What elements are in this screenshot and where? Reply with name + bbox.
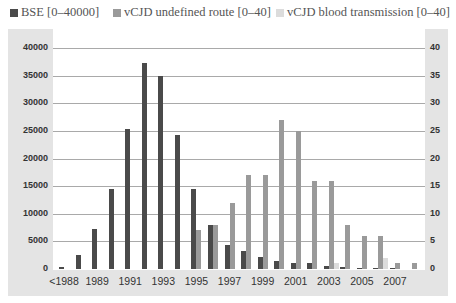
right-axis-tick: 40 bbox=[430, 42, 444, 52]
left-axis-tick: 30000 bbox=[8, 97, 48, 107]
left-axis-tick: 0 bbox=[8, 263, 48, 273]
bar-vcjd-undefined bbox=[362, 236, 367, 269]
right-axis-tick: 25 bbox=[430, 125, 444, 135]
vcjd-undefined-swatch-icon bbox=[113, 9, 121, 17]
left-axis-tick: 5000 bbox=[8, 235, 48, 245]
left-axis-tick: 10000 bbox=[8, 208, 48, 218]
right-axis-tick: 20 bbox=[430, 153, 444, 163]
bar-vcjd-undefined bbox=[213, 225, 218, 269]
bar-vcjd-undefined bbox=[230, 203, 235, 269]
right-axis-tick: 0 bbox=[430, 263, 444, 273]
right-axis-tick: 10 bbox=[430, 208, 444, 218]
bar-vcjd-undefined bbox=[395, 263, 400, 269]
x-axis-tick: 2007 bbox=[375, 275, 415, 287]
right-axis-tick: 5 bbox=[430, 235, 444, 245]
left-axis-tick: 20000 bbox=[8, 153, 48, 163]
left-axis-tick: 15000 bbox=[8, 180, 48, 190]
right-axis-tick: 30 bbox=[430, 97, 444, 107]
legend-item-bse: BSE [0–40000] bbox=[10, 5, 99, 20]
bar-vcjd-undefined bbox=[296, 131, 301, 269]
legend-item-vcjd-undefined: vCJD undefined route [0–40] bbox=[113, 5, 271, 20]
bar-vcjd-blood bbox=[334, 263, 339, 269]
right-axis-tick: 15 bbox=[430, 180, 444, 190]
bar-vcjd-undefined bbox=[279, 120, 284, 269]
bar-bse bbox=[158, 76, 163, 269]
left-axis-tick: 25000 bbox=[8, 125, 48, 135]
bar-vcjd-undefined bbox=[196, 230, 201, 269]
plot-area bbox=[53, 29, 425, 270]
bar-bse bbox=[175, 135, 180, 269]
bar-bse bbox=[109, 189, 114, 269]
bar-bse bbox=[125, 129, 130, 269]
bar-vcjd-undefined bbox=[312, 181, 317, 269]
legend-item-vcjd-blood: vCJD blood transmission [0–40] bbox=[276, 5, 450, 20]
bar-bse bbox=[142, 63, 147, 269]
bar-bse bbox=[92, 229, 97, 269]
left-axis-tick: 35000 bbox=[8, 70, 48, 80]
bar-vcjd-undefined bbox=[412, 263, 417, 269]
left-axis-tick: 40000 bbox=[8, 42, 48, 52]
bar-vcjd-undefined bbox=[246, 175, 251, 269]
bar-bse bbox=[59, 267, 64, 269]
vcjd-blood-swatch-icon bbox=[276, 9, 284, 17]
legend-label: BSE [0–40000] bbox=[21, 5, 99, 20]
bar-vcjd-undefined bbox=[329, 181, 334, 269]
legend-label: vCJD blood transmission [0–40] bbox=[287, 5, 450, 20]
legend: BSE [0–40000] vCJD undefined route [0–40… bbox=[0, 5, 456, 21]
legend-label: vCJD undefined route [0–40] bbox=[124, 5, 271, 20]
bar-vcjd-blood bbox=[383, 258, 388, 269]
right-axis-tick: 35 bbox=[430, 70, 444, 80]
bar-vcjd-undefined bbox=[263, 175, 268, 269]
bse-swatch-icon bbox=[10, 9, 18, 17]
bar-bse bbox=[76, 255, 81, 269]
bar-vcjd-undefined bbox=[345, 225, 350, 269]
